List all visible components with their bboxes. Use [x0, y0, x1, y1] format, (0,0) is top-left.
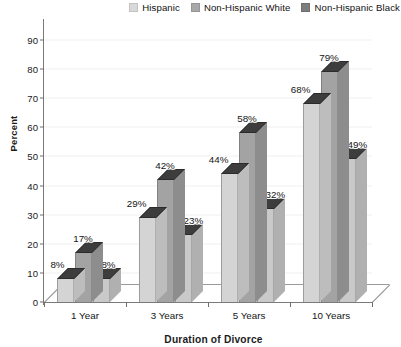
x-axis-title: Duration of Divorce [0, 334, 401, 345]
y-tick-mark [40, 185, 44, 186]
bar-value-label: 68% [291, 84, 311, 95]
legend-label-non-hispanic-white: Non-Hispanic White [204, 2, 291, 13]
x-tick-label: 3 Years [151, 310, 184, 321]
bar-front-face [139, 218, 156, 302]
bar-side-face [320, 93, 331, 302]
bar-side-face [338, 61, 349, 302]
bar-side-face [356, 148, 367, 302]
bar-side-face [274, 198, 285, 302]
bar-side-face [174, 169, 185, 302]
legend-item-non-hispanic-black: Non-Hispanic Black [301, 2, 400, 13]
bar-value-label: 8% [101, 259, 115, 270]
bar-value-label: 79% [319, 52, 339, 63]
bar-value-label: 44% [209, 154, 229, 165]
bar-front-face [221, 174, 238, 302]
bar: 68% [303, 104, 320, 302]
x-tick-label: 10 Years [312, 310, 350, 321]
legend-swatch-hispanic [129, 3, 138, 12]
bar-value-label: 58% [237, 113, 257, 124]
bar-side-face [156, 207, 167, 302]
bar-front-face [57, 279, 74, 302]
bar-value-label: 49% [348, 139, 368, 150]
legend-item-non-hispanic-white: Non-Hispanic White [191, 2, 291, 13]
legend-swatch-non-hispanic-white [191, 3, 200, 12]
x-tick-mark [44, 302, 45, 307]
chart-legend: Hispanic Non-Hispanic White Non-Hispanic… [129, 2, 400, 13]
bar-value-label: 42% [155, 160, 175, 171]
legend-label-non-hispanic-black: Non-Hispanic Black [314, 2, 400, 13]
legend-label-hispanic: Hispanic [142, 2, 180, 13]
x-tick-label: 5 Years [233, 310, 266, 321]
bar-value-label: 17% [73, 233, 93, 244]
bar-value-label: 32% [266, 189, 286, 200]
legend-swatch-non-hispanic-black [301, 3, 310, 12]
gridline [44, 40, 372, 41]
x-tick-mark [372, 302, 373, 307]
x-tick-mark [126, 302, 127, 307]
x-tick-mark [290, 302, 291, 307]
y-tick-mark [40, 214, 44, 215]
legend-item-hispanic: Hispanic [129, 2, 180, 13]
y-tick-mark [40, 98, 44, 99]
bar-side-face [256, 122, 267, 302]
x-tick-mark [208, 302, 209, 307]
bar-side-face [192, 224, 203, 302]
bar-value-label: 29% [127, 198, 147, 209]
bar-value-label: 8% [50, 259, 64, 270]
y-tick-mark [40, 243, 44, 244]
bar-front-face [303, 104, 320, 302]
bar-chart: Hispanic Non-Hispanic White Non-Hispanic… [0, 0, 401, 347]
plot-area: 0102030405060708090 8%17%8%29%42%23%44%5… [44, 22, 372, 302]
floor-depth-line-right [372, 284, 390, 302]
bar: 8% [57, 279, 74, 302]
bar-side-face [238, 163, 249, 302]
y-tick-mark [40, 127, 44, 128]
y-tick-mark [40, 40, 44, 41]
bar: 44% [221, 174, 238, 302]
y-tick-mark [40, 156, 44, 157]
x-tick-label: 1 Year [71, 310, 99, 321]
y-axis-title: Percent [8, 104, 19, 164]
bar: 29% [139, 218, 156, 302]
y-tick-mark [40, 272, 44, 273]
y-axis-line [43, 19, 44, 305]
y-tick-mark [40, 69, 44, 70]
bar-value-label: 23% [184, 215, 204, 226]
